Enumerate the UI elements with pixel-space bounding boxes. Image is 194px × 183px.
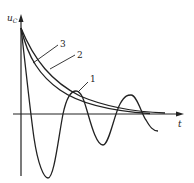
capacitor-voltage-response-diagram: uC t 3 2 1: [0, 0, 194, 183]
axes: [13, 19, 178, 176]
x-axis-arrow-icon: [176, 112, 184, 117]
y-axis-label: uC: [7, 13, 18, 24]
curve-3: [21, 28, 165, 113]
leader-line-3: [33, 45, 58, 63]
y-axis-arrow-icon: [19, 14, 24, 22]
curve-1: [21, 28, 158, 178]
curve-2: [21, 28, 150, 114]
curve-1-label: 1: [90, 74, 96, 84]
leader-line-2: [50, 55, 75, 69]
curve-3-label: 3: [60, 39, 66, 49]
curve-2-label: 2: [77, 50, 83, 60]
x-axis-label: t: [178, 119, 182, 129]
leader-line-1: [78, 82, 88, 92]
